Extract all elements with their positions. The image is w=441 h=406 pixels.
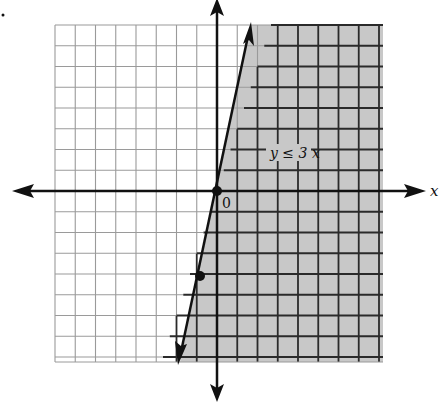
speck — [2, 14, 5, 17]
shaded-region — [180, 25, 383, 362]
point-neg1-neg3 — [195, 271, 205, 281]
origin-point — [212, 186, 222, 196]
inequality-graph: x 0 y ≤ 3 x — [0, 0, 441, 406]
x-axis-label: x — [430, 182, 439, 200]
origin-label: 0 — [222, 195, 231, 211]
inequality-label: y ≤ 3 x — [269, 145, 320, 161]
